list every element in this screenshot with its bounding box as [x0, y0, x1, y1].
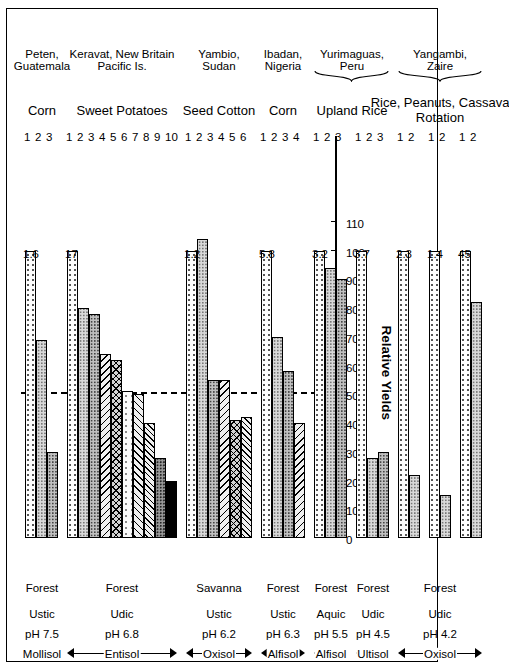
- bar: [336, 279, 347, 538]
- category-number: 2: [77, 131, 83, 143]
- bar: [241, 417, 252, 538]
- soil-moisture-label: Ustic: [29, 608, 55, 620]
- bar: [67, 251, 78, 538]
- category-number: 1: [459, 131, 465, 143]
- bar: [47, 452, 58, 538]
- category-number: 6: [240, 131, 246, 143]
- category-number: 2: [35, 131, 41, 143]
- bar: [155, 458, 166, 538]
- category-number: 3: [207, 131, 213, 143]
- category-number: 4: [293, 131, 299, 143]
- soil-name-label: Mollisol: [21, 648, 61, 660]
- first-crop-yield-label: 1.6: [23, 248, 39, 260]
- y-axis-tick: [331, 250, 337, 251]
- first-crop-yield-label: 3.7: [354, 248, 370, 260]
- category-number: 1: [397, 131, 403, 143]
- bar: [197, 239, 208, 538]
- bar: [314, 251, 325, 538]
- category-number: 1: [355, 131, 361, 143]
- crop-label: Sweet Potatoes: [76, 103, 167, 118]
- category-number: 2: [196, 131, 202, 143]
- site-label: Peten,Guatemala: [13, 48, 69, 73]
- y-axis-tick: [331, 221, 337, 222]
- category-number: 3: [46, 131, 52, 143]
- bar: [261, 251, 272, 538]
- bar: [471, 302, 482, 538]
- category-number: 3: [282, 131, 288, 143]
- bar: [166, 481, 177, 538]
- grouping-brace: [398, 70, 482, 82]
- soil-vegetation-label: Forest: [267, 582, 300, 594]
- crop-label: Rice, Peanuts, CassavaRotation: [371, 95, 509, 125]
- first-crop-yield-label: 17: [65, 248, 78, 260]
- category-number: 4: [218, 131, 224, 143]
- soil-moisture-label: Udic: [110, 608, 133, 620]
- crop-label: Corn: [27, 103, 55, 118]
- bar: [111, 360, 122, 538]
- soil-vegetation-label: Forest: [314, 582, 347, 594]
- category-number: 5: [110, 131, 116, 143]
- bar: [283, 371, 294, 538]
- soil-ph-label: pH 7.5: [25, 628, 59, 640]
- y-axis-title: Relative Yields: [379, 325, 394, 420]
- site-label: Keravat, New BritainPacific Is.: [70, 48, 175, 73]
- category-number: 1: [260, 131, 266, 143]
- category-number: 3: [335, 131, 341, 143]
- soil-vegetation-label: Forest: [424, 582, 457, 594]
- bar: [460, 251, 471, 538]
- site-label: Yangambi,Zaire: [413, 48, 467, 73]
- bar: [133, 394, 144, 538]
- category-number: 10: [165, 131, 178, 143]
- category-number: 1: [428, 131, 434, 143]
- category-number: 1: [24, 131, 30, 143]
- site-label: Yambio,Sudan: [198, 48, 239, 73]
- soil-moisture-label: Ustic: [206, 608, 232, 620]
- bar: [78, 308, 89, 538]
- soil-vegetation-label: Savanna: [196, 582, 241, 594]
- first-crop-yield-label: 2.3: [396, 248, 412, 260]
- rotated-chart-stage: Relative Yields 010203040506070809010011…: [13, 16, 433, 656]
- first-crop-yield-label: 5.8: [259, 248, 275, 260]
- soil-moisture-label: Aquic: [316, 608, 345, 620]
- soil-ph-label: pH 6.2: [202, 628, 236, 640]
- site-label: Yurimaguas,Peru: [320, 48, 384, 73]
- bar: [294, 423, 305, 538]
- first-crop-yield-label: 1.2: [184, 248, 200, 260]
- bar: [378, 452, 389, 538]
- soil-name-label: Oxisol: [423, 648, 457, 660]
- bar: [325, 268, 336, 538]
- soil-name-label: Alfisol: [314, 648, 347, 660]
- soil-vegetation-label: Forest: [356, 582, 389, 594]
- bar: [429, 251, 440, 538]
- soil-name-label: Alfisol: [267, 648, 300, 660]
- category-number: 1: [313, 131, 319, 143]
- category-number: 9: [154, 131, 160, 143]
- y-axis-tick-label: 110: [346, 218, 364, 230]
- bar: [440, 495, 451, 538]
- soil-moisture-label: Udic: [428, 608, 451, 620]
- category-number: 3: [377, 131, 383, 143]
- bar: [219, 380, 230, 538]
- soil-ph-label: pH 6.3: [266, 628, 300, 640]
- category-number: 5: [229, 131, 235, 143]
- crop-label: Seed Cotton: [183, 103, 255, 118]
- soil-vegetation-label: Forest: [25, 582, 58, 594]
- bar: [208, 380, 219, 538]
- category-number: 8: [143, 131, 149, 143]
- bar: [398, 251, 409, 538]
- bar: [122, 392, 133, 539]
- bar: [36, 340, 47, 538]
- bar: [25, 251, 36, 538]
- site-label: Ibadan,Nigeria: [264, 48, 302, 73]
- soil-name-label: Ultisol: [356, 648, 389, 660]
- soil-name-label: Entisol: [104, 648, 141, 660]
- bar: [356, 251, 367, 538]
- category-number: 2: [271, 131, 277, 143]
- bar: [367, 458, 378, 538]
- grouping-brace: [314, 70, 389, 82]
- bar: [89, 314, 100, 538]
- first-crop-yield-label: 3.2: [312, 248, 328, 260]
- soil-ph-label: pH 6.8: [105, 628, 139, 640]
- category-number: 2: [408, 131, 414, 143]
- category-number: 3: [88, 131, 94, 143]
